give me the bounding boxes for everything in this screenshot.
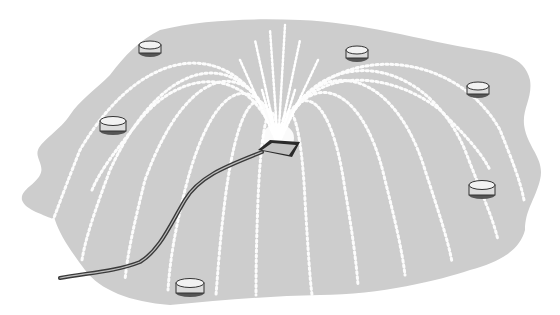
- illustration-canvas: [0, 0, 560, 315]
- light-icon: [139, 41, 161, 57]
- light-icon: [176, 279, 204, 298]
- light-icon: [467, 82, 489, 98]
- ground-pad: [22, 19, 541, 305]
- light-icon: [100, 117, 126, 136]
- fountain-illustration: [0, 0, 560, 315]
- light-icon: [469, 181, 495, 200]
- light-icon: [346, 46, 368, 62]
